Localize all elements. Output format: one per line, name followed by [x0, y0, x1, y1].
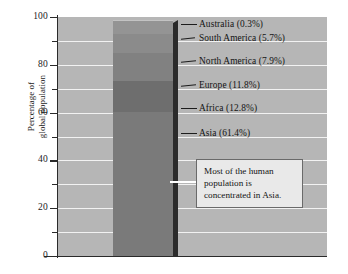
y-tick-label-0: 0 [8, 250, 48, 260]
callout-label-south-america: South America (5.7%) [199, 33, 285, 43]
leader-line-asia [181, 133, 197, 134]
y-tick-40 [50, 160, 58, 161]
annotation-line-2: population is [204, 177, 296, 189]
y-tick-label-20: 20 [8, 202, 48, 212]
gridline-50 [58, 137, 327, 138]
note-leader-line [170, 181, 197, 183]
callout-label-africa: Africa (12.8%) [199, 103, 257, 113]
gridline-60 [58, 113, 327, 114]
callout-label-asia: Asia (61.4%) [199, 128, 250, 138]
bar-segment-africa[interactable] [113, 81, 173, 112]
gridline-10 [58, 232, 327, 233]
gridline-90 [58, 41, 327, 42]
callout-label-australia: Australia (0.3%) [199, 19, 263, 29]
y-tick-70 [52, 89, 58, 90]
gridline-20 [58, 208, 327, 209]
x-axis-line [44, 256, 327, 257]
y-tick-30 [52, 184, 58, 185]
annotation-note: Most of the human population is concentr… [196, 159, 303, 208]
y-tick-50 [52, 137, 58, 138]
gridline-70 [58, 89, 327, 90]
bar-top-bevel [173, 20, 178, 23]
plot-area [58, 17, 327, 256]
y-axis-title-line2: global population [36, 47, 47, 167]
bar-segment-north-america[interactable] [113, 34, 173, 53]
y-tick-label-100: 100 [8, 11, 48, 21]
y-tick-90 [52, 41, 58, 42]
stacked-bar-chart: 100 80 60 40 20 0 Percentage of global p… [0, 0, 348, 274]
callout-label-europe: Europe (11.8%) [199, 80, 260, 90]
bar-segment-europe[interactable] [113, 53, 173, 81]
y-tick-10 [52, 232, 58, 233]
y-tick-100 [50, 17, 58, 18]
annotation-line-1: Most of the human [204, 165, 296, 177]
y-tick-60 [50, 113, 58, 114]
y-axis-title: Percentage of global population [26, 47, 47, 167]
y-axis-title-line1: Percentage of [26, 47, 37, 167]
callout-label-north-america: North America (7.9%) [199, 56, 285, 66]
bar-side-shadow [173, 23, 178, 257]
gridline-80 [58, 65, 327, 66]
leader-line-australia [181, 24, 197, 25]
y-tick-80 [50, 65, 58, 66]
bar-segment-south-america[interactable] [113, 21, 173, 35]
stacked-bar[interactable] [113, 17, 178, 256]
annotation-line-3: concentrated in Asia. [204, 189, 296, 201]
y-tick-0 [50, 256, 58, 257]
y-tick-20 [50, 208, 58, 209]
leader-line-africa [181, 108, 197, 109]
bar-segment-asia[interactable] [113, 112, 173, 256]
